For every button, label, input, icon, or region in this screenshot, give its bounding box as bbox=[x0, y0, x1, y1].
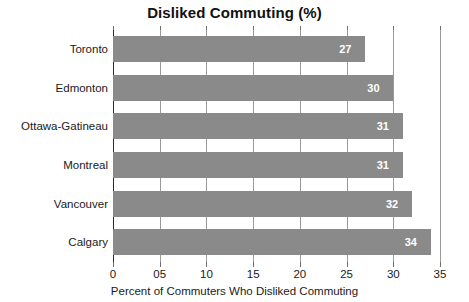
bar-row: 27 bbox=[113, 36, 440, 62]
tick-bottom-20 bbox=[300, 262, 301, 267]
x-axis-title: Percent of Commuters Who Disliked Commut… bbox=[0, 285, 469, 297]
bar-chart: Disliked Commuting (%) TorontoEdmontonOt… bbox=[0, 0, 469, 302]
bar-row: 32 bbox=[113, 191, 440, 217]
bar bbox=[113, 36, 365, 62]
tick-top-35 bbox=[440, 26, 441, 30]
bar bbox=[113, 113, 403, 139]
bar-row: 31 bbox=[113, 152, 440, 178]
bar bbox=[113, 152, 403, 178]
category-label: Montreal bbox=[3, 152, 108, 178]
category-label: Edmonton bbox=[3, 75, 108, 101]
bar bbox=[113, 229, 431, 255]
x-axis-tick-labels: 005101520253035 bbox=[113, 268, 440, 284]
bar-row: 34 bbox=[113, 229, 440, 255]
bar-value-label: 31 bbox=[377, 113, 389, 139]
bar bbox=[113, 191, 412, 217]
bar bbox=[113, 75, 393, 101]
x-tick-label: 05 bbox=[153, 268, 166, 280]
category-label: Ottawa-Gatineau bbox=[3, 113, 108, 139]
gridline-x-20 bbox=[300, 30, 301, 262]
x-tick-label: 0 bbox=[110, 268, 116, 280]
gridline-x-35 bbox=[440, 30, 441, 262]
bar-value-label: 32 bbox=[386, 191, 398, 217]
x-tick-label: 30 bbox=[387, 268, 400, 280]
plot-area: 273031313234 bbox=[113, 30, 440, 262]
y-axis-category-labels: TorontoEdmontonOttawa-GatineauMontrealVa… bbox=[0, 30, 108, 262]
x-tick-label: 15 bbox=[247, 268, 260, 280]
bar-value-label: 34 bbox=[405, 229, 417, 255]
tick-bottom-15 bbox=[253, 262, 254, 267]
category-label: Toronto bbox=[3, 36, 108, 62]
category-label: Vancouver bbox=[3, 191, 108, 217]
tick-bottom-35 bbox=[440, 262, 441, 267]
gridline-x-30 bbox=[393, 30, 394, 262]
tick-top-30 bbox=[393, 26, 394, 30]
category-label: Calgary bbox=[3, 229, 108, 255]
x-tick-label: 20 bbox=[293, 268, 306, 280]
tick-top-15 bbox=[253, 26, 254, 30]
tick-top-10 bbox=[206, 26, 207, 30]
tick-top-5 bbox=[160, 26, 161, 30]
tick-bottom-25 bbox=[347, 262, 348, 267]
x-tick-label: 35 bbox=[434, 268, 447, 280]
tick-top-0 bbox=[113, 26, 114, 30]
gridline-x-5 bbox=[160, 30, 161, 262]
gridline-x-15 bbox=[253, 30, 254, 262]
y-axis-line bbox=[113, 30, 114, 262]
x-tick-label: 25 bbox=[340, 268, 353, 280]
tick-top-20 bbox=[300, 26, 301, 30]
bar-value-label: 31 bbox=[377, 152, 389, 178]
bar-row: 30 bbox=[113, 75, 440, 101]
tick-bottom-30 bbox=[393, 262, 394, 267]
tick-top-25 bbox=[347, 26, 348, 30]
tick-bottom-5 bbox=[160, 262, 161, 267]
chart-title: Disliked Commuting (%) bbox=[0, 4, 469, 21]
tick-bottom-0 bbox=[113, 262, 114, 267]
bar-value-label: 27 bbox=[339, 36, 351, 62]
gridline-x-25 bbox=[347, 30, 348, 262]
bar-row: 31 bbox=[113, 113, 440, 139]
tick-bottom-10 bbox=[206, 262, 207, 267]
gridline-x-10 bbox=[206, 30, 207, 262]
bar-value-label: 30 bbox=[367, 75, 379, 101]
x-tick-label: 10 bbox=[200, 268, 213, 280]
